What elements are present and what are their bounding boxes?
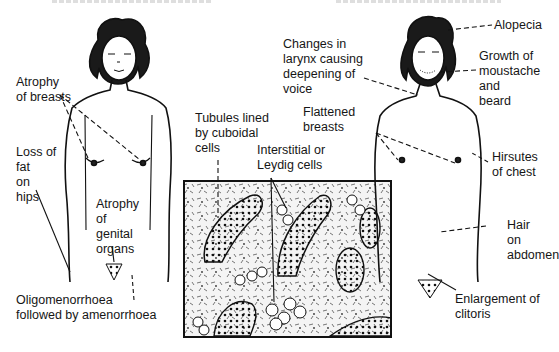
label-interstitial-leydig-cells: Interstitial orLeydig cells xyxy=(257,143,325,173)
label-hair-on-abdomen: Haironabdomen xyxy=(507,218,559,263)
label-hirsutes-of-chest: Hirsutesof chest xyxy=(492,150,538,180)
label-alopecia: Alopecia xyxy=(494,18,542,33)
label-loss-of-fat-on-hips: Loss offatonhips xyxy=(16,145,56,205)
label-enlargement-of-clitoris: Enlargement ofclitoris xyxy=(455,292,540,322)
histology-panel xyxy=(184,181,391,337)
label-larynx-changes: Changes inlarynx causingdeepening ofvoic… xyxy=(283,37,363,97)
label-growth-of-moustache-beard: Growth ofmoustacheandbeard xyxy=(479,49,540,109)
label-oligomenorrhoea: Oligomenorrhoeafollowed by amenorrhoea xyxy=(16,293,156,323)
label-atrophy-of-breasts: Atrophyof breasts xyxy=(16,75,71,105)
label-atrophy-of-genital-organs: Atrophyofgenitalorgans xyxy=(96,197,139,257)
label-flattened-breasts: Flattenedbreasts xyxy=(303,105,355,135)
